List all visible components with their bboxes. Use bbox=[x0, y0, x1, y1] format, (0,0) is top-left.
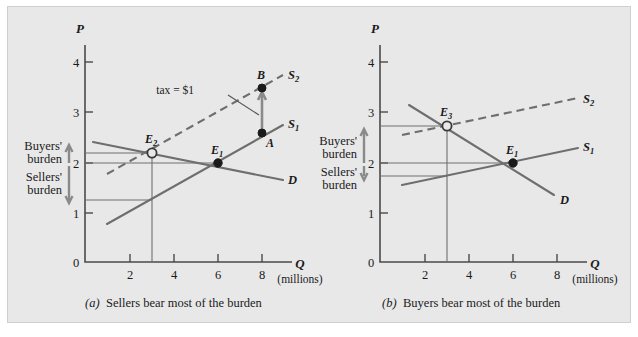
panel-a-point-label-b: B bbox=[256, 68, 265, 82]
panel-b-x-axis-label: Q bbox=[590, 256, 600, 271]
panel-a-ytick-label-4: 4 bbox=[73, 56, 80, 70]
panel-a-label-s2: S2 bbox=[288, 68, 300, 84]
panel-b: P Q (millions) 0 4 3 2 1 2 4 6 8 S2 S1 D… bbox=[319, 21, 618, 310]
panel-b-ytick-label-1: 1 bbox=[368, 207, 374, 221]
panel-b-point-e3 bbox=[442, 121, 451, 130]
panel-a-xtick-label-8: 8 bbox=[259, 268, 265, 282]
panel-a-buyers-burden-line2: burden bbox=[27, 152, 62, 166]
panel-b-burden-arrows bbox=[361, 129, 368, 180]
panel-b-sellers-burden-line2: burden bbox=[322, 178, 357, 192]
panel-a-sellers-burden-line2: burden bbox=[27, 183, 62, 197]
panel-b-caption-marker: (b) bbox=[382, 296, 397, 310]
panel-b-xtick-label-6: 6 bbox=[510, 268, 516, 282]
panel-b-origin-label: 0 bbox=[368, 256, 374, 270]
panel-a-caption-text: Sellers bear most of the burden bbox=[106, 296, 263, 310]
panel-a-point-b bbox=[258, 84, 266, 92]
panel-a-sellers-burden-line1: Sellers' bbox=[26, 170, 62, 184]
panel-a-curve-d bbox=[93, 142, 283, 180]
panel-a-point-label-e1: E1 bbox=[210, 143, 223, 159]
panel-a-xtick-label-6: 6 bbox=[215, 268, 221, 282]
panel-b-label-s2: S2 bbox=[583, 92, 595, 108]
panel-b-point-label-e1: E1 bbox=[505, 143, 518, 159]
panel-b-ytick-label-4: 4 bbox=[368, 56, 375, 70]
figure-svg: P Q (millions) 0 4 3 2 1 2 4 6 8 S2 S1 D… bbox=[0, 0, 638, 337]
panel-b-xtick-label-2: 2 bbox=[422, 268, 428, 282]
panel-a-curve-s2 bbox=[107, 75, 283, 174]
panel-b-x-axis-unit: (millions) bbox=[572, 273, 618, 286]
panel-a-tax-label: tax = $1 bbox=[156, 84, 194, 96]
panel-b-label-d: D bbox=[559, 193, 569, 207]
panel-b-point-e1 bbox=[509, 159, 517, 167]
panel-a-label-s1: S1 bbox=[288, 117, 299, 133]
panel-a-y-axis-label: P bbox=[76, 21, 85, 36]
panel-a-xtick-label-4: 4 bbox=[171, 268, 178, 282]
panel-a-point-a bbox=[258, 129, 266, 137]
panel-a-ytick-label-3: 3 bbox=[73, 106, 79, 120]
panel-b-buyers-burden-line2: burden bbox=[322, 147, 357, 161]
panel-a-point-label-a: A bbox=[265, 136, 274, 150]
tax-incidence-figure: P Q (millions) 0 4 3 2 1 2 4 6 8 S2 S1 D… bbox=[0, 0, 638, 337]
panel-a-ytick-label-2: 2 bbox=[73, 157, 79, 171]
panel-a-buyers-burden-line1: Buyers' bbox=[24, 139, 62, 153]
panel-a-ytick-label-1: 1 bbox=[73, 207, 79, 221]
panel-b-caption-text: Buyers bear most of the burden bbox=[403, 296, 561, 310]
panel-b-label-s1: S1 bbox=[583, 140, 594, 156]
panel-a-origin-label: 0 bbox=[73, 256, 79, 270]
panel-a-x-axis-label: Q bbox=[295, 256, 305, 271]
panel-a-point-e2 bbox=[147, 148, 156, 157]
panel-b-ytick-label-3: 3 bbox=[368, 106, 374, 120]
panel-a-caption-marker: (a) bbox=[85, 296, 100, 310]
panel-b-xtick-label-4: 4 bbox=[466, 268, 473, 282]
panel-b-ytick-label-2: 2 bbox=[368, 157, 374, 171]
panel-b-y-axis-label: P bbox=[371, 21, 380, 36]
panel-b-curve-s1 bbox=[402, 148, 578, 185]
panel-a-label-d: D bbox=[287, 173, 297, 187]
panel-a-point-e1 bbox=[214, 159, 222, 167]
panel-a-x-axis-unit: (millions) bbox=[277, 273, 323, 286]
panel-a-xtick-label-2: 2 bbox=[127, 268, 133, 282]
panel-b-sellers-burden-line1: Sellers' bbox=[321, 165, 357, 179]
panel-a-burden-arrows bbox=[66, 145, 73, 203]
panel-b-xtick-label-8: 8 bbox=[554, 268, 560, 282]
panel-b-point-label-e3: E3 bbox=[439, 105, 453, 121]
panel-a: P Q (millions) 0 4 3 2 1 2 4 6 8 S2 S1 D… bbox=[24, 21, 323, 310]
panel-a-point-label-e2: E2 bbox=[144, 132, 158, 148]
panel-b-buyers-burden-line1: Buyers' bbox=[319, 134, 357, 148]
